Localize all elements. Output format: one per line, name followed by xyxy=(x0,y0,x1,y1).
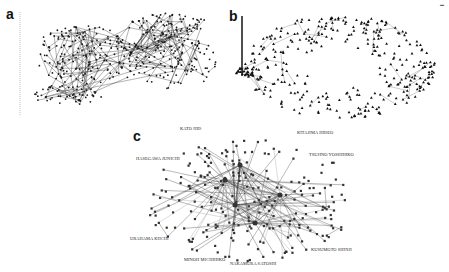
panel-b-network xyxy=(225,0,449,125)
panel-c-network xyxy=(140,125,400,272)
label-nakamura: NAKAMURA SATOSHI xyxy=(230,261,276,266)
label-kusumoto: KUSUMOTO SHINJI xyxy=(311,247,352,252)
panel-a-network xyxy=(0,0,225,120)
label-minoh: MINOH MICHIHIKO xyxy=(184,257,225,262)
label-hasegawa: HASEGAWA JUNICHI xyxy=(136,156,180,161)
label-urahama: URAHAMA KIICHI xyxy=(130,236,169,241)
label-kato: KATO HID xyxy=(180,126,201,131)
label-kitajima: KITAJIMA HIDEO xyxy=(297,130,333,135)
corner-mark: ▬ xyxy=(440,2,444,7)
label-tsujino: TSUJINO YOSHIHIKO xyxy=(309,152,354,157)
